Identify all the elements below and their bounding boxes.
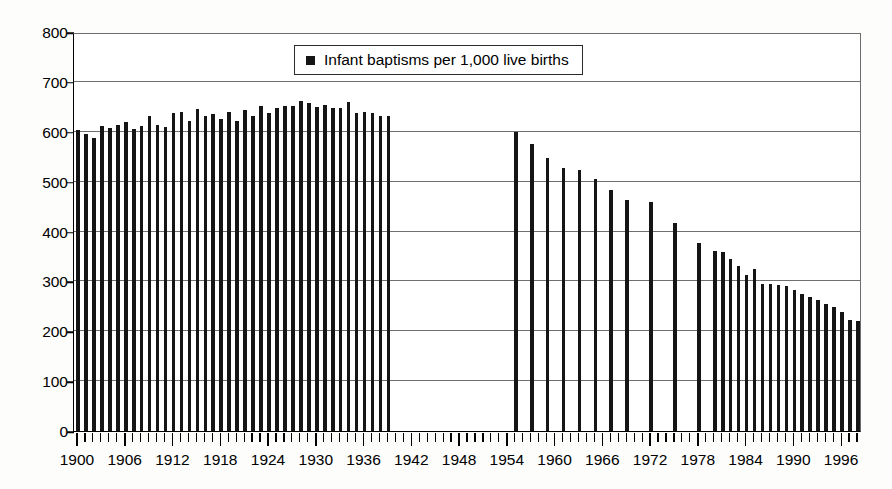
x-axis-major-tick xyxy=(124,433,125,446)
x-axis-tick-label: 1996 xyxy=(824,452,858,468)
bar xyxy=(132,129,136,431)
x-axis-major-tick xyxy=(411,433,412,446)
bar xyxy=(562,168,566,431)
x-axis-minor-tick xyxy=(244,433,245,442)
x-axis-minor-tick xyxy=(546,433,547,442)
bar xyxy=(793,290,797,431)
x-axis-minor-tick xyxy=(498,433,499,442)
y-axis-tick-label: 600 xyxy=(8,125,68,141)
bar xyxy=(737,266,741,431)
bar-chart: 0100200300400500600700800 19001906191219… xyxy=(0,0,892,489)
bar xyxy=(204,116,208,431)
x-axis-major-tick xyxy=(602,433,603,446)
y-axis-tick-label: 0 xyxy=(8,424,68,440)
x-axis-minor-tick xyxy=(180,433,181,442)
bar xyxy=(307,103,311,431)
x-axis-minor-tick xyxy=(474,433,475,442)
x-axis-minor-tick xyxy=(856,433,857,442)
x-axis-minor-tick xyxy=(626,433,627,442)
x-axis-minor-tick xyxy=(339,433,340,442)
x-axis-major-tick xyxy=(315,433,316,446)
x-axis-major-tick xyxy=(841,433,842,446)
x-axis-minor-tick xyxy=(395,433,396,442)
bar xyxy=(92,138,96,431)
x-axis-minor-tick xyxy=(769,433,770,442)
bar xyxy=(848,320,852,431)
y-axis-tick-label: 300 xyxy=(8,275,68,291)
y-axis-tick-label: 700 xyxy=(8,75,68,91)
bar xyxy=(76,130,80,431)
x-axis-minor-tick xyxy=(570,433,571,442)
x-axis-minor-tick xyxy=(610,433,611,442)
x-axis-major-tick xyxy=(793,433,794,446)
bar xyxy=(140,126,144,431)
bar xyxy=(156,125,160,431)
x-axis-tick-label: 1918 xyxy=(203,452,237,468)
x-axis-minor-tick xyxy=(427,433,428,442)
x-axis-minor-tick xyxy=(92,433,93,442)
x-axis-minor-tick xyxy=(331,433,332,442)
x-axis-major-tick xyxy=(745,433,746,446)
x-axis-minor-tick xyxy=(164,433,165,442)
bar xyxy=(379,116,383,431)
bar xyxy=(824,304,828,431)
x-axis-minor-tick xyxy=(204,433,205,442)
x-axis-minor-tick xyxy=(283,433,284,442)
x-axis-major-tick xyxy=(554,433,555,446)
x-axis-minor-tick xyxy=(490,433,491,442)
x-axis-minor-tick xyxy=(299,433,300,442)
x-axis-tick-label: 1960 xyxy=(537,452,571,468)
x-axis-minor-tick xyxy=(466,433,467,442)
x-axis-minor-tick xyxy=(801,433,802,442)
x-axis-minor-tick xyxy=(307,433,308,442)
chart-legend: Infant baptisms per 1,000 live births xyxy=(294,45,583,75)
x-axis-major-tick xyxy=(267,433,268,446)
x-axis-major-tick xyxy=(76,433,77,446)
x-axis-minor-tick xyxy=(236,433,237,442)
bar xyxy=(808,297,812,431)
bar xyxy=(721,252,725,431)
bar xyxy=(235,121,239,431)
gridline xyxy=(74,380,860,381)
bar xyxy=(251,116,255,431)
bar xyxy=(291,106,295,431)
gridline xyxy=(74,330,860,331)
x-axis-minor-tick xyxy=(100,433,101,442)
y-axis-tick-label: 400 xyxy=(8,225,68,241)
x-axis-minor-tick xyxy=(594,433,595,442)
x-axis-minor-tick xyxy=(665,433,666,442)
bar xyxy=(578,170,582,431)
x-axis-tick-label: 1912 xyxy=(155,452,189,468)
bar xyxy=(745,275,749,431)
y-axis-tick-label: 800 xyxy=(8,25,68,41)
x-axis-minor-tick xyxy=(729,433,730,442)
x-axis-tick-label: 1972 xyxy=(633,452,667,468)
x-axis-minor-tick xyxy=(848,433,849,442)
x-axis-tick-label: 1954 xyxy=(490,452,524,468)
bar xyxy=(840,312,844,431)
bar xyxy=(832,307,836,431)
x-axis-minor-tick xyxy=(777,433,778,442)
plot-area xyxy=(73,33,861,432)
x-axis-minor-tick xyxy=(753,433,754,442)
x-axis-major-tick xyxy=(458,433,459,446)
x-axis-minor-tick xyxy=(148,433,149,442)
x-axis-minor-tick xyxy=(403,433,404,442)
x-axis-minor-tick xyxy=(196,433,197,442)
x-axis-minor-tick xyxy=(705,433,706,442)
x-axis-tick-label: 1948 xyxy=(442,452,476,468)
bar xyxy=(283,106,287,431)
bar xyxy=(816,300,820,431)
bar xyxy=(609,190,613,431)
x-axis-major-tick xyxy=(697,433,698,446)
bar xyxy=(785,286,789,431)
bar xyxy=(856,321,860,431)
bar xyxy=(180,112,184,431)
x-axis-minor-tick xyxy=(642,433,643,442)
legend-color-swatch-icon xyxy=(306,56,315,65)
x-axis-minor-tick xyxy=(538,433,539,442)
x-axis-minor-tick xyxy=(228,433,229,442)
bar xyxy=(219,119,223,431)
bar xyxy=(323,105,327,431)
x-axis-tick-label: 1984 xyxy=(728,452,762,468)
